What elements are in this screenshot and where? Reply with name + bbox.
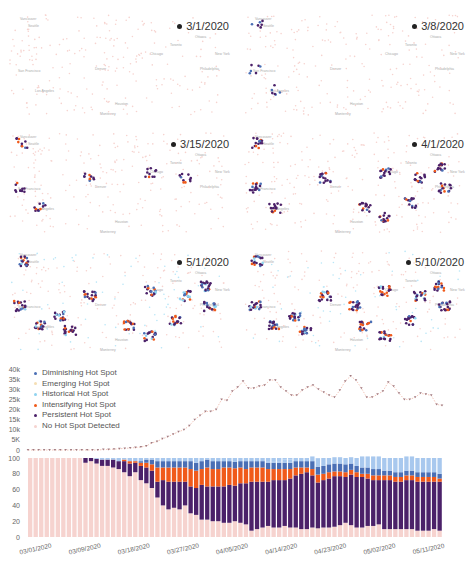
hotspot-marker <box>411 206 414 209</box>
county-marker <box>328 167 330 169</box>
bar-segment <box>161 461 165 467</box>
county-marker <box>337 104 339 106</box>
county-marker <box>129 71 131 73</box>
county-marker <box>132 106 134 108</box>
hotspot-marker <box>293 316 296 319</box>
county-marker <box>23 274 25 276</box>
county-marker <box>105 69 107 71</box>
county-marker <box>312 315 314 317</box>
y-tick-label: 35k <box>9 376 21 383</box>
county-marker <box>125 20 127 22</box>
county-marker <box>254 334 256 336</box>
legend-item-diminishing: Diminishing Hot Spot <box>34 368 120 379</box>
county-marker <box>246 176 248 178</box>
county-marker <box>257 271 259 273</box>
county-marker <box>23 50 25 52</box>
county-marker <box>63 39 65 41</box>
county-marker <box>384 141 386 143</box>
county-marker <box>281 184 283 186</box>
bar-segment <box>388 529 392 537</box>
county-marker <box>162 225 164 227</box>
county-marker <box>307 30 309 32</box>
hotspot-marker <box>84 172 87 175</box>
county-marker <box>130 304 132 306</box>
county-marker <box>353 287 355 289</box>
hotspot-marker <box>23 255 26 258</box>
hotspot-marker <box>250 259 253 262</box>
hotspot-marker <box>271 210 274 213</box>
county-marker <box>47 304 49 306</box>
county-marker <box>179 106 181 108</box>
bar-segment <box>128 464 132 477</box>
hotspot-marker <box>180 322 183 325</box>
hotspot-marker <box>259 301 262 304</box>
county-marker <box>318 340 320 342</box>
county-marker <box>395 187 397 189</box>
bar-segment <box>432 458 436 472</box>
bar-segment <box>227 485 231 523</box>
county-marker <box>282 336 284 338</box>
county-marker <box>140 198 142 200</box>
county-marker <box>378 270 380 272</box>
county-marker <box>109 256 111 258</box>
county-marker <box>22 204 24 206</box>
county-marker <box>113 305 115 307</box>
county-marker <box>70 341 72 343</box>
bar-segment <box>410 471 414 476</box>
hotspot-marker <box>383 337 386 340</box>
hotspot-marker <box>361 209 364 212</box>
bar-segment <box>294 467 298 475</box>
x-tick-label: 03/18/2020 <box>117 542 151 556</box>
county-marker <box>356 273 358 275</box>
county-marker <box>406 145 408 147</box>
county-marker <box>396 215 398 217</box>
county-marker <box>251 98 253 100</box>
data-point-marker <box>430 394 433 396</box>
county-marker <box>329 169 331 171</box>
county-marker <box>327 161 329 163</box>
hotspot-marker <box>352 306 355 309</box>
county-marker <box>69 50 71 52</box>
bar-segment <box>404 471 408 476</box>
county-marker <box>152 143 154 145</box>
data-point-marker <box>339 389 342 391</box>
hotspot-marker <box>369 204 372 207</box>
county-marker <box>450 217 452 219</box>
county-marker <box>179 337 181 339</box>
county-marker <box>253 337 255 339</box>
hotspot-marker <box>438 306 441 309</box>
county-marker <box>218 70 220 72</box>
county-marker <box>120 255 122 257</box>
county-marker <box>327 201 329 203</box>
county-marker <box>42 199 44 201</box>
county-marker <box>143 23 145 25</box>
county-marker <box>29 328 31 330</box>
county-marker <box>432 327 434 329</box>
hotspot-marker <box>255 145 258 148</box>
county-marker <box>45 270 47 272</box>
county-marker <box>335 253 337 255</box>
county-marker <box>399 174 401 176</box>
hotspot-marker <box>44 204 47 207</box>
city-label: Seattle <box>263 24 274 28</box>
hotspot-marker <box>182 299 185 302</box>
bar-segment <box>388 475 392 480</box>
hotspot-marker <box>256 306 259 309</box>
hotspot-marker <box>327 292 330 295</box>
stacked-bar <box>360 456 364 537</box>
county-marker <box>171 92 173 94</box>
city-label: Ottawa <box>195 35 206 39</box>
bar-segment <box>327 528 331 537</box>
county-marker <box>165 298 167 300</box>
county-marker <box>145 300 147 302</box>
hotspot-marker <box>90 175 93 178</box>
county-marker <box>106 183 108 185</box>
hotspot-marker <box>291 315 294 318</box>
county-marker <box>213 165 215 167</box>
county-marker <box>63 266 65 268</box>
county-marker <box>428 167 430 169</box>
hotspot-marker <box>41 328 44 331</box>
county-marker <box>206 202 208 204</box>
stacked-bar <box>78 458 82 537</box>
county-marker <box>188 32 190 34</box>
